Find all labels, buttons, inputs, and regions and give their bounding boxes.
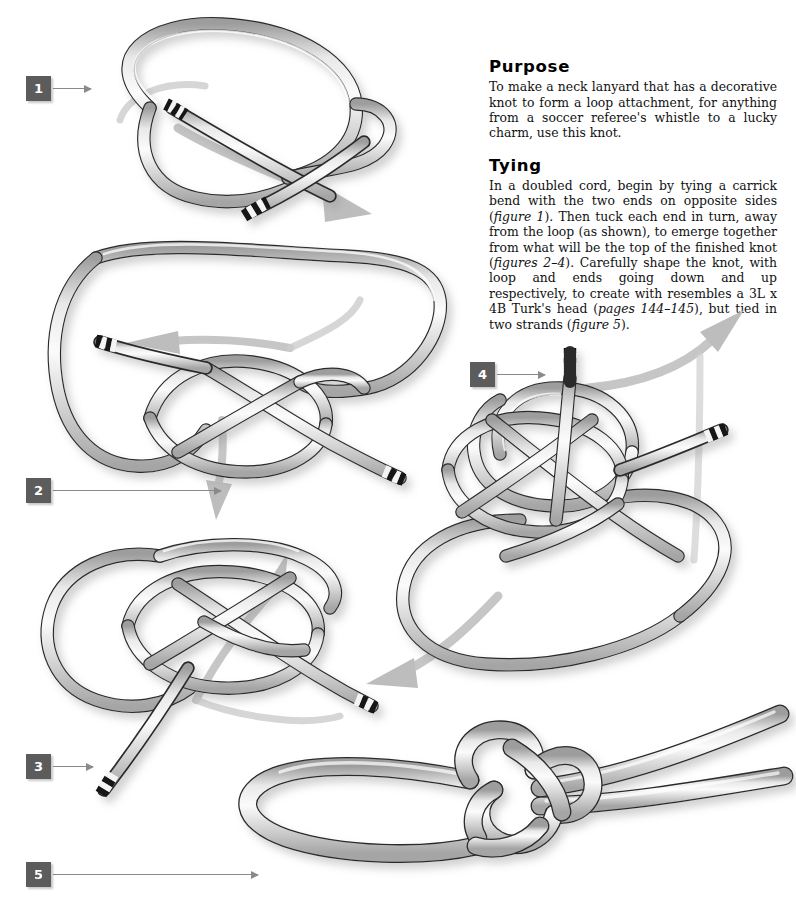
figure-marker-label: 5 bbox=[34, 867, 43, 882]
figure-3-second-tuck bbox=[47, 540, 376, 794]
figure-4-ends-emerge bbox=[403, 348, 726, 665]
figure-marker-label: 3 bbox=[34, 759, 43, 774]
figure-marker-3: 3 bbox=[26, 754, 51, 779]
figure-marker-5: 5 bbox=[26, 862, 51, 887]
figure-leader-arrow-2 bbox=[53, 490, 221, 491]
figure-leader-arrow-4 bbox=[497, 374, 545, 375]
figure-2-first-tuck bbox=[54, 244, 440, 480]
figure-leader-arrow-1 bbox=[53, 88, 91, 89]
cord-end-whipping-2b bbox=[384, 471, 404, 480]
figure-leader-arrow-3 bbox=[53, 766, 93, 767]
figure-marker-2: 2 bbox=[26, 478, 51, 503]
figure-marker-label: 2 bbox=[34, 483, 43, 498]
cord-end-whipping-4b bbox=[706, 429, 726, 437]
cord-figures-layer: .cordOut { fill:none; stroke:#2b2b2b; st… bbox=[0, 0, 796, 910]
figure-marker-4: 4 bbox=[470, 362, 495, 387]
figure-1-carrick-bend bbox=[128, 24, 390, 216]
figure-5-finished-knot bbox=[248, 712, 784, 854]
figure-marker-1: 1 bbox=[26, 76, 51, 101]
knot-instruction-page: .cordOut { fill:none; stroke:#2b2b2b; st… bbox=[0, 0, 796, 910]
figure-marker-label: 1 bbox=[34, 81, 43, 96]
figure-marker-label: 4 bbox=[478, 367, 487, 382]
cord-end-whipping-3b bbox=[356, 699, 376, 708]
cord-end-whipping-2a bbox=[96, 341, 116, 346]
figure-leader-arrow-5 bbox=[53, 874, 258, 875]
